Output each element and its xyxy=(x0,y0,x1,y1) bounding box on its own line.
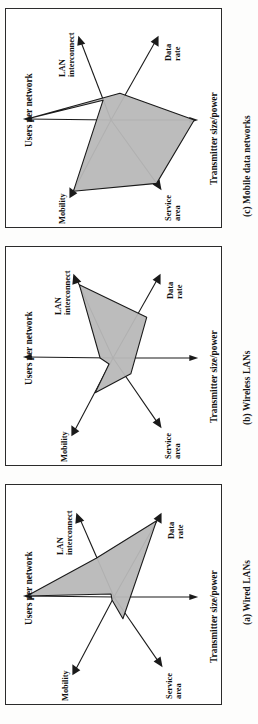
axis-label-data-rate-b: Data rate xyxy=(166,259,185,299)
arrowhead-data-rate xyxy=(153,274,161,285)
axis-label-data-rate-a: Data rate xyxy=(167,499,186,539)
axis-label-data-rate-line2: rate xyxy=(175,285,184,299)
radar-polygon-b xyxy=(79,285,146,393)
panel-a: Users per network Transmitter size/power… xyxy=(5,484,222,705)
axis-label-service-area-c: Service area xyxy=(164,177,183,221)
axis-label-data-rate-line2: rate xyxy=(176,525,185,539)
axis-label-transmitter-size-power-c: Transmitter size/power xyxy=(209,92,219,185)
axis-label-mobility-a: Mobility xyxy=(61,670,70,701)
axis-label-lan-interconnect-line2: interconnect xyxy=(63,270,72,315)
axis-label-transmitter-size-power-b: Transmitter size/power xyxy=(209,330,219,423)
arrowhead-service-area xyxy=(153,417,162,428)
panel-caption-c: (c) Mobile data networks xyxy=(242,115,252,217)
panel-caption-a: (a) Wired LANs xyxy=(242,560,252,625)
axis-label-service-area-line2: area xyxy=(173,205,182,221)
panel-c: Users per network Transmitter size/power… xyxy=(5,8,222,228)
axis-label-data-rate-line1: Data xyxy=(164,44,173,61)
axis-label-service-area-line1: Service xyxy=(164,195,173,221)
arrowhead-lan-interconnect xyxy=(72,274,81,285)
arrowhead-transmitter-size-power xyxy=(189,594,198,600)
axis-label-service-area-a: Service area xyxy=(165,655,184,699)
panel-b-plot xyxy=(6,247,221,465)
axis-label-lan-interconnect-c: LAN interconnect xyxy=(58,23,77,77)
axis-label-service-area-b: Service area xyxy=(164,415,183,459)
arrowhead-mobility xyxy=(71,425,79,436)
axis-label-lan-interconnect-a: LAN interconnect xyxy=(56,501,75,555)
axis-label-lan-interconnect-line2: interconnect xyxy=(65,510,74,555)
axis-label-users-per-network-a: Users per network xyxy=(24,551,34,625)
axis-label-data-rate-line1: Data xyxy=(167,522,176,539)
axis-label-data-rate-line2: rate xyxy=(173,47,182,61)
panel-c-plot xyxy=(6,9,221,227)
figure-page: Users per network Transmitter size/power… xyxy=(0,0,258,724)
axis-label-service-area-line2: area xyxy=(174,683,183,699)
panel-caption-b: (b) Wireless LANs xyxy=(242,350,252,425)
axis-label-mobility-b: Mobility xyxy=(60,431,69,462)
axis-label-service-area-line1: Service xyxy=(164,433,173,459)
arrowhead-lan-interconnect xyxy=(75,513,84,524)
panel-b: Users per network Transmitter size/power… xyxy=(5,246,222,466)
axis-label-data-rate-c: Data rate xyxy=(164,21,183,61)
axis-label-users-per-network-b: Users per network xyxy=(24,311,34,385)
axis-label-transmitter-size-power-a: Transmitter size/power xyxy=(209,570,219,663)
axis-label-service-area-line1: Service xyxy=(165,673,174,699)
axis-label-mobility-c: Mobility xyxy=(58,193,67,224)
arrowhead-transmitter-size-power xyxy=(189,355,198,361)
axis-label-lan-interconnect-b: LAN interconnect xyxy=(54,261,73,315)
arrowhead-data-rate xyxy=(151,36,159,47)
axis-mobility xyxy=(76,597,114,668)
axis-label-lan-interconnect-line2: interconnect xyxy=(67,32,76,77)
axis-label-lan-interconnect-line1: LAN xyxy=(58,59,67,77)
arrowhead-mobility xyxy=(72,664,80,675)
arrowhead-service-area xyxy=(154,656,163,667)
axis-label-lan-interconnect-line1: LAN xyxy=(54,297,63,315)
arrowhead-lan-interconnect xyxy=(77,36,85,46)
panel-a-plot xyxy=(6,485,221,704)
axis-label-lan-interconnect-line1: LAN xyxy=(56,537,65,555)
axis-label-data-rate-line1: Data xyxy=(166,282,175,299)
axis-label-users-per-network-c: Users per network xyxy=(24,73,34,147)
axis-label-service-area-line2: area xyxy=(173,443,182,459)
radar-polygon-a xyxy=(27,521,157,619)
